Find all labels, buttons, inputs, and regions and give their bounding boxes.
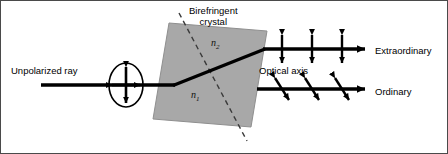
extraordinary-ray-label: Extraordinary (375, 45, 432, 56)
crystal-label-line2: crystal (189, 16, 238, 27)
optical-axis-label: Optical axis (259, 65, 308, 76)
unpolarized-light-symbol (109, 63, 143, 107)
refractive-index-n2-label: n2 (211, 37, 220, 51)
unpolarized-ray-label: Unpolarized ray (11, 65, 78, 76)
birefringent-crystal-label: Birefringent crystal (189, 5, 238, 27)
ordinary-ray-label: Ordinary (375, 86, 411, 97)
birefringence-figure: Unpolarized ray Birefringent crystal Opt… (0, 0, 448, 154)
refractive-index-n1-label: n1 (191, 89, 200, 103)
n1-subscript: 1 (196, 95, 200, 103)
crystal-label-line1: Birefringent (189, 5, 238, 16)
birefringent-crystal-slab (153, 23, 267, 127)
n2-subscript: 2 (216, 43, 220, 51)
